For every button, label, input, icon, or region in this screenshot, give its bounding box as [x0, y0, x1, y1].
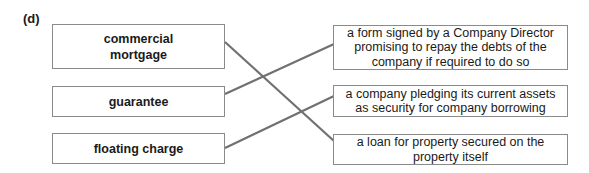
- definition-box-property-loan[interactable]: a loan for property secured on the prope…: [333, 134, 568, 165]
- definition-label: a company pledging its current assets as…: [340, 87, 561, 116]
- match-line-floating-charge: [225, 96, 334, 148]
- term-label: commercial mortgage: [94, 31, 184, 63]
- question-label: (d): [23, 11, 40, 26]
- term-label: floating charge: [94, 141, 184, 157]
- definition-box-pledging-assets[interactable]: a company pledging its current assets as…: [333, 85, 568, 117]
- definition-label: a loan for property secured on the prope…: [351, 135, 551, 164]
- match-line-commercial-mortgage: [225, 42, 334, 141]
- term-label: guarantee: [109, 94, 169, 110]
- term-box-guarantee[interactable]: guarantee: [52, 86, 225, 117]
- term-box-commercial-mortgage[interactable]: commercial mortgage: [52, 24, 225, 69]
- definition-label: a form signed by a Company Director prom…: [340, 26, 561, 70]
- match-line-guarantee: [225, 44, 334, 94]
- definition-box-guarantee-form[interactable]: a form signed by a Company Director prom…: [333, 25, 568, 70]
- term-box-floating-charge[interactable]: floating charge: [52, 133, 225, 164]
